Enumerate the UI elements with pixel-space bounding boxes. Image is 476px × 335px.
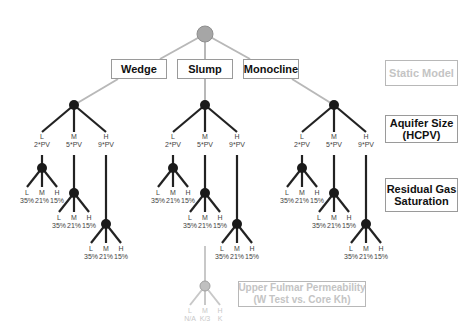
aquifer-option-label: H 9*PV — [351, 133, 381, 149]
sgr-option-label: H 15% — [334, 214, 364, 230]
sgr-option-label: H 15% — [366, 245, 396, 261]
level-residual-gas-saturation: Residual Gas Saturation — [385, 178, 458, 212]
model-box-monocline: Monocline — [243, 59, 299, 79]
aquifer-option-label: M 5*PV — [319, 133, 349, 149]
aquifer-option-label: H 9*PV — [222, 133, 252, 149]
level-upper-fulmar-permeability: Upper Fulmar Permeability (W Test vs. Co… — [238, 281, 366, 307]
aquifer-option-label: L 2*PV — [287, 133, 317, 149]
sgr-node — [37, 163, 47, 173]
sgr-option-label: H 15% — [302, 189, 332, 205]
aquifer-node — [200, 100, 210, 110]
sgr-option-label: H 15% — [237, 245, 267, 261]
sgr-node — [168, 163, 178, 173]
aquifer-node — [329, 100, 339, 110]
aquifer-option-label: M 5*PV — [59, 133, 89, 149]
sgr-option-label: H 15% — [173, 189, 203, 205]
sgr-option-label: H 15% — [74, 214, 104, 230]
sgr-option-label: H 15% — [205, 214, 235, 230]
model-box-wedge: Wedge — [111, 59, 167, 79]
permeability-node — [200, 281, 210, 291]
sgr-option-label: H 15% — [106, 245, 136, 261]
aquifer-option-label: M 5*PV — [190, 133, 220, 149]
sgr-node — [297, 163, 307, 173]
level-aquifer-size: Aquifer Size (HCPV) — [385, 115, 458, 143]
level-static-model: Static Model — [385, 60, 458, 86]
model-box-slump: Slump — [177, 59, 233, 79]
sgr-option-label: H 15% — [42, 189, 72, 205]
aquifer-node — [69, 100, 79, 110]
aquifer-option-label: L 2*PV — [158, 133, 188, 149]
root-node — [197, 26, 213, 42]
aquifer-option-label: H 9*PV — [91, 133, 121, 149]
aquifer-option-label: L 2*PV — [27, 133, 57, 149]
perm-option-label: H K — [205, 307, 235, 323]
